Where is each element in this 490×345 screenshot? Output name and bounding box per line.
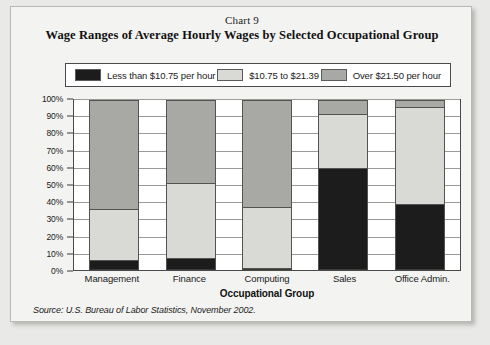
legend-item-0: Less than $10.75 per hour <box>75 69 215 81</box>
chart-panel: Chart 9 Wage Ranges of Average Hourly Wa… <box>10 6 472 322</box>
legend-item-1: $10.75 to $21.39 <box>217 69 319 81</box>
bar-segment <box>318 100 368 114</box>
bar-segment <box>395 107 445 204</box>
y-tick-label-50: 50% <box>47 180 63 190</box>
x-axis-title: Occupational Group <box>73 288 461 299</box>
y-tick-label-0: 0% <box>51 266 63 276</box>
bar-segment <box>89 209 139 260</box>
x-axis-label-2: Computing <box>232 273 302 284</box>
bar-segment <box>318 168 368 270</box>
bar-segment <box>166 258 216 270</box>
source-note: Source: U.S. Bureau of Labor Statistics,… <box>33 305 256 315</box>
bar-column-sales[interactable] <box>318 100 368 270</box>
y-axis: 0%10%20%30%40%50%60%70%80%90%100% <box>33 99 67 271</box>
chart-legend: Less than $10.75 per hour$10.75 to $21.3… <box>65 63 451 87</box>
x-axis-label-1: Finance <box>154 273 224 284</box>
bar-segment <box>166 100 216 183</box>
y-tick-label-90: 90% <box>47 111 63 121</box>
legend-label-0: Less than $10.75 per hour <box>107 70 215 81</box>
legend-label-2: Over $21.50 per hour <box>353 70 441 81</box>
legend-item-2: Over $21.50 per hour <box>321 69 441 81</box>
bar-segment <box>89 260 139 270</box>
y-tick-label-80: 80% <box>47 128 63 138</box>
bar-segment <box>242 207 292 268</box>
x-axis-labels: ManagementFinanceComputingSalesOffice Ad… <box>73 273 461 284</box>
bar-segment <box>242 268 292 270</box>
bar-column-computing[interactable] <box>242 100 292 270</box>
x-axis-label-0: Management <box>77 273 147 284</box>
bar-column-management[interactable] <box>89 100 139 270</box>
legend-swatch-mid <box>217 69 243 81</box>
y-tick-label-100: 100% <box>42 94 63 104</box>
bar-segment <box>395 204 445 270</box>
y-tick-label-10: 10% <box>47 249 63 259</box>
y-tick-label-60: 60% <box>47 163 63 173</box>
page-title: Wage Ranges of Average Hourly Wages by S… <box>11 27 473 43</box>
legend-label-1: $10.75 to $21.39 <box>249 70 319 81</box>
y-tick-label-70: 70% <box>47 146 63 156</box>
y-tick-label-40: 40% <box>47 197 63 207</box>
bar-segment <box>318 114 368 168</box>
bar-segment <box>242 100 292 207</box>
legend-swatch-high <box>321 69 347 81</box>
chart-number: Chart 9 <box>11 13 473 27</box>
y-tick-label-20: 20% <box>47 232 63 242</box>
plot-wrapper: 0%10%20%30%40%50%60%70%80%90%100% <box>33 99 461 271</box>
bar-column-office-admin[interactable] <box>395 100 445 270</box>
bars-container <box>74 100 460 270</box>
bar-segment <box>166 183 216 258</box>
legend-swatch-low <box>75 69 101 81</box>
title-block: Chart 9 Wage Ranges of Average Hourly Wa… <box>11 13 473 43</box>
y-tick-label-30: 30% <box>47 214 63 224</box>
bar-segment <box>89 100 139 209</box>
bar-column-finance[interactable] <box>166 100 216 270</box>
bar-segment <box>395 100 445 107</box>
page-background: Chart 9 Wage Ranges of Average Hourly Wa… <box>0 0 490 345</box>
x-axis-label-4: Office Admin. <box>387 273 457 284</box>
plot-area <box>73 99 461 271</box>
x-axis-label-3: Sales <box>310 273 380 284</box>
